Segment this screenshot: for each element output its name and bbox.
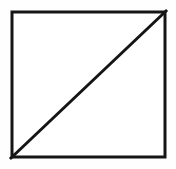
figure-container — [0, 0, 176, 169]
square-with-diagonal-diagram — [0, 0, 176, 169]
